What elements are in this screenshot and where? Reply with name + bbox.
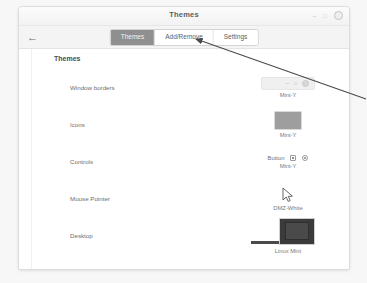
cursor-arrow-icon: [281, 187, 295, 203]
preview-radio-icon: [302, 155, 308, 161]
row-label-controls: Controls: [70, 158, 93, 165]
table-row[interactable]: Controls Button Mint-Y: [32, 143, 349, 180]
tab-settings[interactable]: Settings: [214, 30, 258, 45]
desktop-preview-widget: [251, 218, 325, 246]
maximize-icon[interactable]: □: [323, 13, 327, 19]
table-row[interactable]: Icons Mint-Y: [32, 106, 349, 143]
desktop-thumbnail: [279, 218, 315, 245]
titlebar-preview-widget: – □: [261, 77, 315, 90]
row-preview-icons[interactable]: Mint-Y: [228, 111, 348, 138]
tab-bar: Themes Add/Remove Settings: [110, 29, 259, 46]
preview-checkbox-icon: [290, 155, 296, 161]
row-preview-mouse-pointer[interactable]: DMZ-White: [228, 187, 348, 211]
window-title: Themes: [19, 10, 349, 19]
icon-theme-swatch: [274, 111, 302, 130]
preview-minimize-icon: –: [286, 80, 289, 86]
back-button[interactable]: ←: [26, 31, 39, 44]
table-row[interactable]: Desktop Linux Mint: [32, 217, 349, 254]
row-label-desktop: Desktop: [70, 232, 93, 239]
row-preview-controls[interactable]: Button Mint-Y: [228, 155, 348, 169]
section-title: Themes: [54, 55, 80, 62]
tab-add-remove[interactable]: Add/Remove: [155, 30, 214, 45]
table-row[interactable]: Mouse Pointer DMZ-White: [32, 180, 349, 217]
desktop-thumbnail-inner: [285, 222, 309, 240]
window-controls: – □: [312, 11, 343, 20]
controls-preview-widget: Button: [268, 155, 309, 161]
settings-panel: Themes Window borders – □ Mint-Y: [31, 49, 349, 270]
window-toolbar: ← Themes Add/Remove Settings: [19, 26, 349, 49]
preview-close-icon: [302, 80, 309, 87]
theme-rows: Window borders – □ Mint-Y Icons: [32, 69, 349, 254]
row-preview-desktop[interactable]: Linux Mint: [228, 218, 348, 254]
window-titlebar: Themes – □: [19, 7, 349, 26]
themes-window: Themes – □ ← Themes Add/Remove Settings …: [18, 6, 350, 270]
table-row[interactable]: Window borders – □ Mint-Y: [32, 69, 349, 106]
close-icon[interactable]: [334, 11, 343, 20]
row-preview-window-borders[interactable]: – □ Mint-Y: [228, 77, 348, 98]
themes-content: Themes Window borders – □ Mint-Y: [19, 49, 349, 270]
row-value-icons: Mint-Y: [280, 132, 297, 138]
row-value-desktop: Linux Mint: [275, 248, 301, 254]
preview-button-label: Button: [268, 155, 285, 161]
minimize-icon[interactable]: –: [312, 12, 316, 19]
row-value-controls: Mint-Y: [280, 163, 297, 169]
preview-maximize-icon: □: [294, 81, 297, 86]
row-label-window-borders: Window borders: [70, 84, 115, 91]
tab-themes[interactable]: Themes: [111, 30, 155, 45]
row-label-icons: Icons: [70, 121, 85, 128]
row-value-mouse-pointer: DMZ-White: [273, 205, 302, 211]
row-value-window-borders: Mint-Y: [280, 92, 297, 98]
row-label-mouse-pointer: Mouse Pointer: [70, 195, 110, 202]
